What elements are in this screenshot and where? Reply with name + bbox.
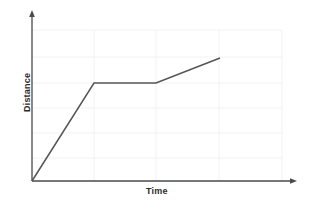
y-axis-arrow-icon <box>29 10 35 17</box>
journey-line <box>32 58 220 181</box>
chart-canvas <box>0 0 310 214</box>
x-axis-arrow-icon <box>290 178 297 184</box>
data-series-journey <box>32 58 220 181</box>
x-axis-label: Time <box>146 186 168 196</box>
x-axis <box>32 178 297 184</box>
y-axis-label: Distance <box>22 73 32 112</box>
distance-time-chart: Distance Time <box>0 0 310 214</box>
gridlines-horizontal <box>32 30 282 158</box>
